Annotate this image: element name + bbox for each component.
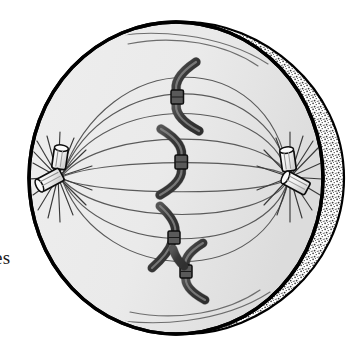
figure-canvas: es <box>0 0 359 353</box>
caption-fragment: es <box>0 248 10 267</box>
mitosis-cell-diagram <box>0 0 359 353</box>
